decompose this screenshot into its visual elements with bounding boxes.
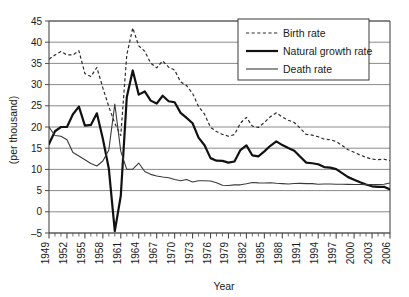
y-tick-label: 40 bbox=[31, 37, 43, 48]
x-tick-label: 1988 bbox=[273, 242, 284, 265]
y-tick-label: 10 bbox=[31, 164, 43, 175]
chart-container: –5051015202530354045 1949195219551958196… bbox=[0, 0, 409, 297]
legend-label-natural-growth-rate: Natural growth rate bbox=[283, 45, 372, 57]
y-tick-label: 0 bbox=[36, 206, 42, 217]
x-tick-label: 1949 bbox=[40, 242, 51, 265]
x-axis-title: Year bbox=[213, 280, 235, 292]
x-tick-label: 1991 bbox=[291, 242, 302, 265]
y-tick-label: 5 bbox=[36, 185, 42, 196]
y-tick-label: 20 bbox=[31, 122, 43, 133]
x-tick-label: 1985 bbox=[255, 242, 266, 265]
x-tick-label: 2006 bbox=[381, 242, 392, 265]
y-tick-label: 30 bbox=[31, 79, 43, 90]
x-tick-label: 1997 bbox=[327, 242, 338, 265]
y-tick-label: 15 bbox=[31, 143, 43, 154]
x-tick-label: 1964 bbox=[130, 242, 141, 265]
x-tick-label: 1976 bbox=[202, 242, 213, 265]
x-tick-label: 1973 bbox=[184, 242, 195, 265]
x-tick-label: 1982 bbox=[237, 242, 248, 265]
x-tick-label: 1961 bbox=[112, 242, 123, 265]
legend[interactable]: Birth rateNatural growth rateDeath rate bbox=[238, 19, 372, 80]
y-tick-label: –5 bbox=[31, 228, 43, 239]
x-tick-label: 1979 bbox=[219, 242, 230, 265]
y-tick-label: 45 bbox=[31, 16, 43, 27]
demographic-rates-line-chart: –5051015202530354045 1949195219551958196… bbox=[0, 0, 409, 297]
x-tick-label: 2003 bbox=[363, 242, 374, 265]
y-tick-label: 25 bbox=[31, 100, 43, 111]
y-axis-title: (per thousand) bbox=[7, 96, 19, 164]
x-tick-label: 1967 bbox=[148, 242, 159, 265]
legend-label-birth-rate: Birth rate bbox=[283, 27, 326, 39]
x-tick-label: 1970 bbox=[166, 242, 177, 265]
x-tick-label: 1994 bbox=[309, 242, 320, 265]
y-tick-label: 35 bbox=[31, 58, 43, 69]
legend-label-death-rate: Death rate bbox=[283, 63, 332, 75]
x-tick-label: 1955 bbox=[76, 242, 87, 265]
x-tick-label: 1958 bbox=[94, 242, 105, 265]
x-tick-label: 2000 bbox=[345, 242, 356, 265]
x-tick-label: 1952 bbox=[58, 242, 69, 265]
